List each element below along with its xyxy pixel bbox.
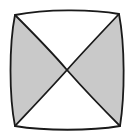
geometric-figure <box>0 0 133 138</box>
